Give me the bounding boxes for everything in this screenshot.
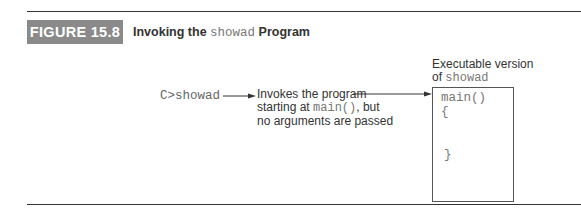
arrow-description-to-executable	[353, 92, 432, 97]
arrows	[0, 0, 581, 217]
bottom-rule	[27, 204, 581, 205]
arrow-command-to-description	[223, 94, 256, 99]
